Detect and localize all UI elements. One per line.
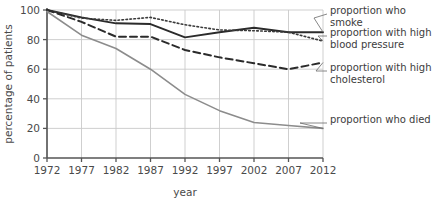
- x-tick-label: 2012: [310, 164, 337, 176]
- ann-chol-line-0: proportion with high: [330, 62, 436, 74]
- ann-smoke-leader: [314, 14, 327, 32]
- ann-died: proportion who died: [330, 114, 436, 126]
- ann-bp-line-0: proportion with high: [330, 27, 436, 39]
- chart-figure: 020406080100 197219771982198719921997200…: [0, 0, 437, 201]
- y-tick-label: 20: [27, 122, 40, 134]
- y-tick-label: 100: [20, 4, 40, 16]
- x-tick-label: 1997: [206, 164, 233, 176]
- x-tick-label: 1972: [34, 164, 61, 176]
- ann-smoke: proportion who smoke: [330, 5, 436, 28]
- ann-chol-line-1: cholesterol: [330, 74, 436, 86]
- x-tick-label: 1982: [103, 164, 130, 176]
- ann-died-line-0: proportion who died: [330, 114, 436, 126]
- x-tick-label: 1977: [68, 164, 95, 176]
- ann-smoke-line-0: proportion who smoke: [330, 5, 436, 28]
- ann-chol: proportion with highcholesterol: [330, 62, 436, 85]
- ann-bp-line-1: blood pressure: [330, 39, 436, 51]
- x-tick-label: 2002: [241, 164, 268, 176]
- ann-bp: proportion with highblood pressure: [330, 27, 436, 50]
- y-axis-title: percentage of patients: [2, 24, 14, 143]
- x-axis-ticks: 197219771982198719921997200220072012: [34, 158, 337, 176]
- y-tick-label: 60: [27, 63, 40, 75]
- x-tick-label: 1987: [137, 164, 164, 176]
- x-tick-label: 1992: [172, 164, 199, 176]
- y-axis-ticks: 020406080100: [20, 4, 47, 164]
- x-axis-title: year: [173, 186, 197, 198]
- y-tick-label: 0: [33, 152, 40, 164]
- y-tick-label: 80: [27, 34, 40, 46]
- x-tick-label: 2007: [275, 164, 302, 176]
- y-tick-label: 40: [27, 93, 40, 105]
